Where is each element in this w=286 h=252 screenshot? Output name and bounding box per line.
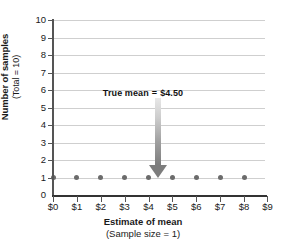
y-tick-label-8: 8 [24,49,46,60]
x-tick-label-0: $0 [40,201,66,212]
x-tick-label-2: $2 [88,201,114,212]
chart-container: Number of samples (Total = 10) 10 9 8 7 … [0,0,286,252]
x-axis-title-main: Estimate of mean [0,216,286,228]
y-tick-label-group: 10 9 8 7 6 5 4 3 2 1 0 [22,0,46,252]
y-axis-title-sub: (Total = 10) [11,7,21,147]
arrow-shaft [155,98,161,165]
y-tick-label-7: 7 [24,67,46,78]
data-point [242,175,247,180]
true-mean-value: $4.50 [160,88,183,98]
gridline-8 [53,55,265,56]
x-axis-title-sub: (Sample size = 1) [0,228,286,240]
x-tick-label-9: $9 [255,201,281,212]
true-mean-equals: = [149,88,160,98]
y-tick-label-4: 4 [24,119,46,130]
x-tick-label-5: $5 [159,201,185,212]
x-tick-label-8: $8 [231,201,257,212]
x-axis-title: Estimate of mean (Sample size = 1) [0,216,286,240]
y-tick-label-9: 9 [24,32,46,43]
true-mean-arrow [149,98,167,178]
y-tick-label-5: 5 [24,102,46,113]
data-point [218,175,223,180]
y-axis-line [52,19,54,196]
data-point [146,175,151,180]
true-mean-text: True mean [103,88,149,98]
x-tick-label-6: $6 [183,201,209,212]
y-tick-label-10: 10 [24,14,46,25]
x-tick-label-7: $7 [207,201,233,212]
x-tick-label-3: $3 [112,201,138,212]
x-tick-label-4: $4 [136,201,162,212]
x-tick-label-1: $1 [64,201,90,212]
gridline-10 [53,20,265,21]
data-point [194,175,199,180]
y-tick-label-3: 3 [24,137,46,148]
data-point [170,175,175,180]
y-tick-label-2: 2 [24,154,46,165]
true-mean-annotation: True mean=$4.50 [0,88,286,98]
x-axis-line [52,195,267,197]
plot-area [53,20,267,195]
data-point [98,175,103,180]
data-point [74,175,79,180]
data-point [122,175,127,180]
gridline-7 [53,73,265,74]
y-tick-label-0: 0 [24,189,46,200]
arrow-head-icon [149,165,167,178]
gridline-9 [53,38,265,39]
y-tick-label-1: 1 [24,172,46,183]
y-axis-title-main: Number of samples [0,7,11,147]
